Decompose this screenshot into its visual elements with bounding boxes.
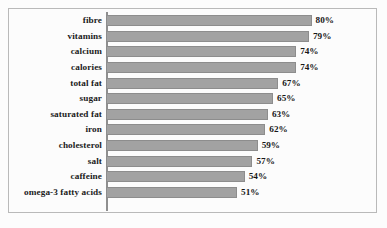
- bar-track: 67%: [106, 75, 376, 91]
- bar: [106, 187, 237, 198]
- bar-row: calories74%: [9, 60, 376, 76]
- bar-track: 51%: [106, 185, 376, 201]
- bar-row: calcium74%: [9, 44, 376, 60]
- bar-track: 54%: [106, 169, 376, 185]
- bar-track: 63%: [106, 107, 376, 123]
- bar-track: 62%: [106, 122, 376, 138]
- bar: [106, 156, 252, 167]
- bar-track: 74%: [106, 60, 376, 76]
- bar-track: 57%: [106, 153, 376, 169]
- bar-value-label: 80%: [316, 16, 334, 25]
- bar: [106, 140, 258, 151]
- bar-value-label: 65%: [277, 94, 295, 103]
- bar: [106, 62, 296, 73]
- bar-row: iron62%: [9, 122, 376, 138]
- bar-track: 74%: [106, 44, 376, 60]
- bar-value-label: 51%: [241, 188, 259, 197]
- chart-frame: fibre80%vitamins79%calcium74%calories74%…: [8, 8, 377, 213]
- category-label: omega-3 fatty acids: [9, 188, 106, 197]
- bar: [106, 46, 296, 57]
- bar: [106, 93, 273, 104]
- bar: [106, 124, 265, 135]
- bar-value-label: 59%: [262, 141, 280, 150]
- bar: [106, 15, 312, 26]
- bar-row: cholesterol59%: [9, 138, 376, 154]
- bar: [106, 31, 309, 42]
- category-label: caffeine: [9, 172, 106, 181]
- bar-value-label: 62%: [269, 125, 287, 134]
- bar-value-label: 79%: [313, 32, 331, 41]
- bar-value-label: 63%: [272, 110, 290, 119]
- category-label: saturated fat: [9, 110, 106, 119]
- bar-rows: fibre80%vitamins79%calcium74%calories74%…: [9, 13, 376, 200]
- bar: [106, 78, 278, 89]
- bar: [106, 171, 245, 182]
- bar-row: vitamins79%: [9, 29, 376, 45]
- bar-row: saturated fat63%: [9, 107, 376, 123]
- category-label: sugar: [9, 94, 106, 103]
- bar-row: sugar65%: [9, 91, 376, 107]
- bar-chart: fibre80%vitamins79%calcium74%calories74%…: [0, 0, 387, 228]
- category-label: calcium: [9, 47, 106, 56]
- category-label: cholesterol: [9, 141, 106, 150]
- bar: [106, 109, 268, 120]
- bar-track: 59%: [106, 138, 376, 154]
- bar-row: fibre80%: [9, 13, 376, 29]
- category-label: fibre: [9, 16, 106, 25]
- bar-row: total fat67%: [9, 75, 376, 91]
- category-label: salt: [9, 157, 106, 166]
- bar-track: 65%: [106, 91, 376, 107]
- bar-track: 79%: [106, 29, 376, 45]
- bar-track: 80%: [106, 13, 376, 29]
- plot-area: fibre80%vitamins79%calcium74%calories74%…: [9, 9, 376, 212]
- bar-value-label: 74%: [300, 63, 318, 72]
- bar-row: caffeine54%: [9, 169, 376, 185]
- bar-value-label: 74%: [300, 47, 318, 56]
- category-label: calories: [9, 63, 106, 72]
- category-label: total fat: [9, 79, 106, 88]
- bar-row: omega-3 fatty acids51%: [9, 185, 376, 201]
- bar-row: salt57%: [9, 153, 376, 169]
- bar-value-label: 54%: [249, 172, 267, 181]
- bar-value-label: 67%: [282, 79, 300, 88]
- category-label: iron: [9, 125, 106, 134]
- bar-value-label: 57%: [256, 157, 274, 166]
- category-label: vitamins: [9, 32, 106, 41]
